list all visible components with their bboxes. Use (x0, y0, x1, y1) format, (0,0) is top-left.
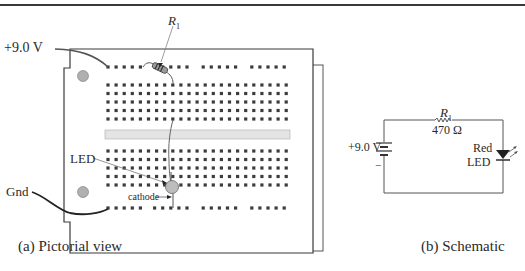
resistor-label-text: R (168, 13, 176, 28)
cathode-label: cathode (128, 192, 159, 202)
schematic-led-label-line1: Red (473, 142, 492, 154)
caption-schematic: (b) Schematic (421, 239, 505, 254)
schematic-supply-label: +9.0 V (348, 141, 381, 153)
schematic-resistor-label-subscript: 1 (448, 114, 452, 123)
resistor-label-subscript: 1 (176, 22, 180, 31)
led-symbol (496, 146, 518, 160)
mount-hole-bottom (78, 187, 89, 198)
schematic-resistor-label: R1 (440, 106, 452, 123)
schematic-resistor-label-text: R (440, 105, 448, 120)
supply-label: +9.0 V (4, 41, 43, 55)
center-channel (105, 130, 290, 139)
resistor-label: R1 (168, 14, 180, 31)
ground-label: Gnd (6, 185, 28, 198)
breadboard-backplate (312, 65, 323, 251)
schematic-resistor-value: 470 Ω (432, 124, 462, 136)
led-label: LED (70, 152, 95, 165)
schematic-battery-minus: − (375, 160, 381, 171)
schematic-led-label-line2: LED (467, 156, 490, 168)
caption-pictorial: (a) Pictorial view (18, 239, 122, 254)
mount-hole-top (78, 71, 89, 82)
led-body (166, 181, 179, 194)
